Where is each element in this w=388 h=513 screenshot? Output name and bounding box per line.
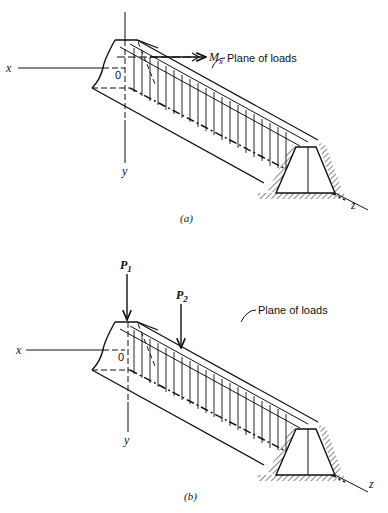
load-p1-label: P1 bbox=[120, 258, 132, 274]
x-axis-label: x bbox=[15, 343, 22, 357]
origin-label: 0 bbox=[118, 351, 124, 363]
load-p2-label: P2 bbox=[176, 288, 188, 304]
y-axis-label: y bbox=[121, 164, 128, 178]
moment-label: Mx bbox=[208, 50, 223, 66]
y-axis-label: y bbox=[123, 433, 130, 447]
caption-a: (a) bbox=[180, 212, 193, 225]
figure-b: x y 0 P1 P2 Plane of loads z (b) bbox=[15, 258, 374, 503]
plane-of-loads-label: Plane of loads bbox=[227, 52, 297, 64]
x-axis-label: x bbox=[5, 61, 12, 75]
plane-of-loads-label: Plane of loads bbox=[258, 304, 328, 316]
beam-diagrams: x y 0 Mx Plane of loads z (a) x y 0 P1 P… bbox=[0, 0, 388, 513]
origin-label: 0 bbox=[115, 69, 121, 81]
z-axis-label: z bbox=[350, 198, 356, 212]
caption-b: (b) bbox=[184, 490, 197, 503]
figure-a: x y 0 Mx Plane of loads z (a) bbox=[5, 12, 368, 225]
z-axis-label: z bbox=[368, 477, 374, 491]
